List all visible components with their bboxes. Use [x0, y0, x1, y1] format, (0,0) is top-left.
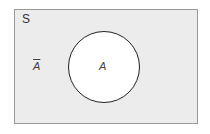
set-a-label: A — [99, 60, 106, 72]
universal-set-label: S — [22, 12, 30, 26]
complement-label: A — [33, 60, 40, 72]
